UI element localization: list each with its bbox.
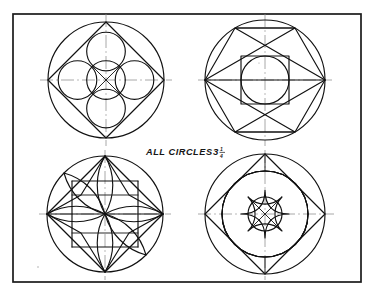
annotation-text: ALL CIRCLES xyxy=(145,147,213,157)
annotation-fraction-denominator: 4 xyxy=(219,153,223,159)
drawing-sheet: ALL CIRCLES 3 1 4 xyxy=(0,0,374,294)
annotation-fraction-numerator: 1 xyxy=(220,146,223,152)
geometric-plate-svg: ALL CIRCLES 3 1 4 xyxy=(0,0,374,294)
annotation-whole-number: 3 xyxy=(213,146,219,157)
paper-speck xyxy=(258,62,259,63)
all-circles-note: ALL CIRCLES 3 1 4 xyxy=(145,146,225,159)
paper-speck xyxy=(37,266,38,267)
